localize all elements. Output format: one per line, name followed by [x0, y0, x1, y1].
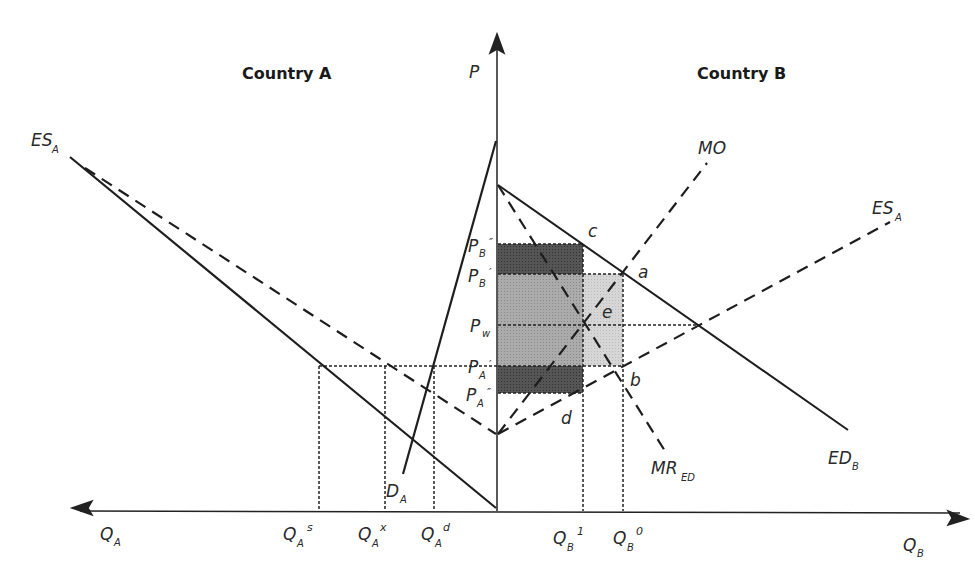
svg-text:Q: Q	[553, 528, 566, 548]
svg-text:x: x	[379, 521, 387, 534]
svg-text:A: A	[113, 537, 121, 548]
svg-text:0: 0	[636, 525, 643, 538]
pb2-label: P B ″	[468, 236, 494, 259]
qa-label: Q A	[100, 524, 121, 548]
svg-text:″: ″	[487, 386, 492, 399]
svg-text:Q: Q	[358, 524, 371, 544]
svg-text:′: ′	[489, 358, 492, 371]
trade-diagram: Country A Country B P ES A MO ES A ED B …	[0, 0, 975, 582]
svg-text:B: B	[479, 278, 486, 289]
svg-text:″: ″	[489, 236, 494, 249]
svg-text:A: A	[478, 370, 486, 381]
svg-text:P: P	[470, 316, 481, 336]
es-a-left-solid	[70, 157, 496, 508]
svg-text:1: 1	[577, 525, 584, 538]
svg-text:MR: MR	[651, 458, 677, 478]
svg-text:A: A	[894, 212, 902, 223]
country-a-title: Country A	[242, 64, 332, 83]
svg-text:P: P	[468, 266, 479, 286]
svg-text:P: P	[466, 385, 477, 405]
qa-axis-arrow	[72, 501, 92, 515]
qas-label: Q A s	[283, 521, 313, 549]
svg-text:B: B	[917, 548, 924, 559]
svg-text:B: B	[567, 542, 574, 553]
qb-label: Q B	[903, 535, 924, 559]
svg-text:Q: Q	[903, 535, 916, 555]
point-b: b	[630, 370, 641, 390]
d-a-label: D A	[386, 481, 407, 505]
svg-text:Q: Q	[100, 524, 113, 544]
svg-text:P: P	[468, 357, 479, 377]
svg-text:A: A	[434, 538, 442, 549]
svg-text:A: A	[399, 494, 407, 505]
d-a-curve	[403, 141, 496, 474]
svg-text:d: d	[443, 521, 451, 534]
svg-text:′: ′	[489, 266, 492, 279]
pb1-label: P B ′	[468, 266, 492, 289]
svg-text:B: B	[627, 542, 634, 553]
svg-text:ES: ES	[31, 130, 53, 150]
svg-text:ED: ED	[828, 448, 852, 468]
pw-label: P w	[470, 316, 491, 339]
es-a-left-dashed	[85, 168, 496, 434]
es-a-left-label: ES A	[31, 130, 59, 155]
mo-label: MO	[698, 138, 726, 158]
svg-text:A: A	[51, 144, 59, 155]
svg-text:B: B	[479, 248, 486, 259]
region-pb1-pa1-left	[498, 274, 583, 366]
es-a-right-label: ES A	[872, 198, 902, 223]
qad-label: Q A d	[421, 521, 451, 549]
qax-label: Q A x	[358, 521, 387, 549]
svg-text:A: A	[371, 538, 379, 549]
qb1-label: Q B 1	[553, 525, 584, 553]
svg-text:ED: ED	[681, 472, 695, 483]
q-axis	[80, 511, 960, 513]
p-axis-label: P	[469, 62, 480, 82]
point-e: e	[602, 302, 612, 322]
svg-text:Q: Q	[613, 528, 626, 548]
pa1-label: P A ′	[468, 357, 492, 381]
svg-text:B: B	[852, 461, 859, 472]
svg-text:w: w	[482, 328, 491, 339]
point-c: c	[588, 221, 598, 241]
ed-b-label: ED B	[828, 448, 859, 472]
svg-text:P: P	[468, 236, 479, 256]
region-pb2-pb1	[498, 244, 583, 274]
country-b-title: Country B	[697, 64, 786, 83]
point-a: a	[638, 262, 648, 282]
point-d: d	[561, 408, 572, 428]
svg-text:D: D	[386, 481, 399, 501]
mr-ed-label: MR ED	[651, 458, 695, 483]
qb0-label: Q B 0	[613, 525, 643, 553]
svg-text:Q: Q	[283, 524, 296, 544]
svg-text:A: A	[476, 398, 484, 409]
svg-text:A: A	[296, 538, 304, 549]
svg-text:Q: Q	[421, 524, 434, 544]
svg-text:s: s	[307, 521, 313, 534]
pa2-label: P A ″	[466, 385, 492, 409]
svg-text:ES: ES	[872, 198, 894, 218]
